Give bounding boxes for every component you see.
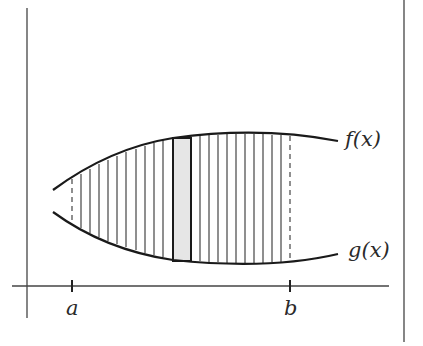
curve-f	[53, 133, 338, 190]
label-g: g(x)	[348, 238, 390, 262]
label-a: a	[66, 296, 79, 320]
hatching-right	[200, 134, 281, 263]
hatching-left	[81, 140, 163, 257]
curve-g	[53, 212, 338, 264]
label-b: b	[284, 296, 297, 320]
representative-strip	[173, 138, 191, 261]
label-f: f(x)	[343, 127, 381, 151]
area-between-curves-diagram: f(x) g(x) a b	[0, 0, 423, 346]
